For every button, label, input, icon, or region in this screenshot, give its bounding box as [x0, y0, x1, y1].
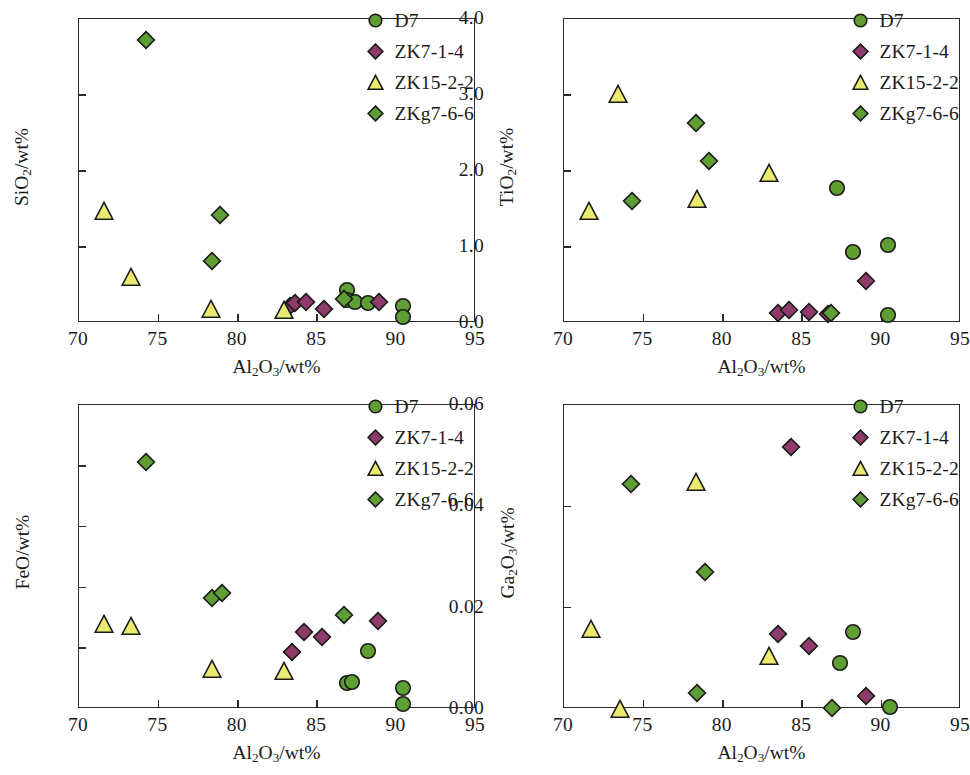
legend-tio2: D7 ZK7-1-4 ZK15-2-2 ZKg7-6-6 [850, 8, 959, 126]
data-point-diamond-marker [769, 625, 788, 644]
data-point-diamond-marker [621, 475, 640, 494]
legend-item-zk15-2-2[interactable]: ZK15-2-2 [850, 456, 959, 481]
x-axis-tick [158, 314, 160, 322]
x-axis-tick [316, 700, 318, 708]
legend-label: ZK7-1-4 [879, 427, 949, 449]
data-point-diamond-marker [136, 31, 155, 50]
legend-item-zk7-1-4[interactable]: ZK7-1-4 [365, 425, 474, 450]
y-axis-tick [563, 170, 571, 172]
legend-item-d7[interactable]: D7 [365, 8, 474, 33]
y-axis-tick [78, 246, 86, 248]
data-point-triangle-marker [94, 614, 114, 634]
y-axis-title-feo: FeO/wt% [12, 492, 34, 612]
legend-item-zk7-1-4[interactable]: ZK7-1-4 [365, 39, 474, 64]
legend-item-d7[interactable]: D7 [365, 394, 474, 419]
x-tick-label: 95 [465, 328, 485, 350]
legend-label: ZK15-2-2 [394, 72, 474, 94]
x-tick-label: 95 [465, 714, 485, 736]
legend-diamond-marker-icon [365, 428, 385, 448]
legend-item-zkg7-6-6[interactable]: ZKg7-6-6 [365, 101, 474, 126]
legend-diamond-marker-icon [850, 490, 870, 510]
legend-item-zk7-1-4[interactable]: ZK7-1-4 [850, 425, 959, 450]
x-tick-label: 85 [306, 328, 326, 350]
data-point-circle-marker [879, 237, 896, 254]
x-tick-label: 85 [791, 714, 811, 736]
data-point-triangle-marker [581, 619, 601, 639]
data-point-triangle-marker [687, 189, 707, 209]
x-tick-label: 75 [632, 714, 652, 736]
legend-triangle-marker-icon [850, 459, 870, 479]
legend-label: ZK7-1-4 [394, 41, 464, 63]
legend-item-zk15-2-2[interactable]: ZK15-2-2 [365, 70, 474, 95]
panel-ga2o3: 0.000.020.040.06 Ga2O3/wt% Al2O3/wt% D7 … [485, 386, 969, 774]
data-point-circle-marker [394, 308, 411, 325]
data-point-triangle-marker [201, 299, 221, 319]
legend-circle-marker-icon [850, 11, 870, 31]
y-axis-tick [563, 607, 571, 609]
data-point-diamond-marker [282, 642, 301, 661]
data-point-diamond-marker [335, 290, 354, 309]
data-point-diamond-marker [686, 114, 705, 133]
x-tick-label: 80 [227, 714, 247, 736]
data-point-circle-marker [845, 624, 862, 641]
data-point-triangle-marker [121, 267, 141, 287]
data-point-circle-marker [394, 680, 411, 697]
legend-label: ZK15-2-2 [879, 72, 959, 94]
y-axis-tick [78, 647, 86, 649]
data-point-triangle-marker [759, 646, 779, 666]
legend-item-zk7-1-4[interactable]: ZK7-1-4 [850, 39, 959, 64]
legend-label: ZK15-2-2 [394, 458, 474, 480]
x-axis-tick [722, 314, 724, 322]
data-point-triangle-marker [610, 699, 630, 719]
y-axis-tick [78, 465, 86, 467]
x-tick-label: 80 [227, 328, 247, 350]
data-point-diamond-marker [623, 191, 642, 210]
x-tick-label: 95 [950, 328, 970, 350]
y-axis-title-sio2: SiO2/wt% [11, 107, 35, 227]
x-tick-label: 70 [68, 714, 88, 736]
x-tick-label: 70 [553, 714, 573, 736]
legend-label: ZK7-1-4 [394, 427, 464, 449]
x-axis-tick [643, 314, 645, 322]
legend-diamond-marker-icon [365, 490, 385, 510]
legend-item-zkg7-6-6[interactable]: ZKg7-6-6 [850, 487, 959, 512]
legend-label: ZK15-2-2 [879, 458, 959, 480]
x-tick-label: 80 [712, 714, 732, 736]
data-point-diamond-marker [370, 293, 389, 312]
legend-item-zkg7-6-6[interactable]: ZKg7-6-6 [365, 487, 474, 512]
data-point-diamond-marker [211, 206, 230, 225]
x-tick-label: 70 [553, 328, 573, 350]
data-point-diamond-marker [295, 622, 314, 641]
legend-item-zk15-2-2[interactable]: ZK15-2-2 [850, 70, 959, 95]
legend-diamond-marker-icon [365, 42, 385, 62]
x-axis-tick [237, 314, 239, 322]
legend-item-zkg7-6-6[interactable]: ZKg7-6-6 [850, 101, 959, 126]
x-tick-label: 85 [306, 714, 326, 736]
legend-diamond-marker-icon [850, 104, 870, 124]
data-point-diamond-marker [688, 683, 707, 702]
x-tick-label: 80 [712, 328, 732, 350]
panel-feo: 0.01.02.03.04.05.0 FeO/wt% Al2O3/wt% D7 … [0, 386, 484, 774]
legend-item-d7[interactable]: D7 [850, 8, 959, 33]
data-point-diamond-marker [799, 303, 818, 322]
legend-item-d7[interactable]: D7 [850, 394, 959, 419]
legend-item-zk15-2-2[interactable]: ZK15-2-2 [365, 456, 474, 481]
x-axis-tick [801, 700, 803, 708]
data-point-diamond-marker [212, 584, 231, 603]
x-tick-label: 85 [791, 328, 811, 350]
x-axis-tick [722, 700, 724, 708]
data-point-triangle-marker [274, 661, 294, 681]
legend-diamond-marker-icon [365, 104, 385, 124]
data-point-triangle-marker [759, 163, 779, 183]
data-point-circle-marker [845, 243, 862, 260]
x-tick-label: 95 [950, 714, 970, 736]
x-tick-label: 90 [386, 328, 406, 350]
data-point-diamond-marker [203, 251, 222, 270]
data-point-circle-marker [879, 307, 896, 324]
data-point-diamond-marker [335, 606, 354, 625]
data-point-circle-marker [360, 642, 377, 659]
data-point-diamond-marker [856, 272, 875, 291]
x-tick-label: 90 [871, 328, 891, 350]
legend-circle-marker-icon [365, 397, 385, 417]
